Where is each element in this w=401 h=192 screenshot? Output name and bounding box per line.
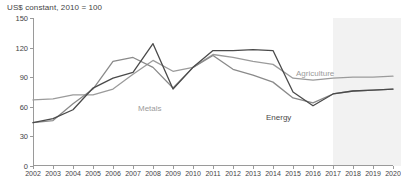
x-tick-label: 2003 xyxy=(45,170,61,177)
series-label-energy: Energy xyxy=(266,113,291,122)
x-tick-label: 2017 xyxy=(325,170,341,177)
plot-area: 0306090120150 20022003200420052006200720… xyxy=(33,18,393,166)
x-tick-mark xyxy=(293,166,294,169)
x-tick-label: 2016 xyxy=(305,170,321,177)
y-tick-label: 60 xyxy=(20,102,28,111)
series-label-metals: Metals xyxy=(138,104,162,113)
x-tick-label: 2012 xyxy=(225,170,241,177)
x-tick-mark xyxy=(253,166,254,169)
x-tick-mark xyxy=(93,166,94,169)
x-tick-label: 2005 xyxy=(85,170,101,177)
x-tick-label: 2014 xyxy=(265,170,281,177)
x-tick-mark xyxy=(53,166,54,169)
x-tick-label: 2013 xyxy=(245,170,261,177)
x-tick-mark xyxy=(173,166,174,169)
x-tick-mark xyxy=(193,166,194,169)
x-tick-mark xyxy=(393,166,394,169)
x-tick-mark xyxy=(273,166,274,169)
x-tick-label: 2009 xyxy=(165,170,181,177)
series-lines xyxy=(33,18,393,166)
x-tick-label: 2015 xyxy=(285,170,301,177)
x-tick-label: 2007 xyxy=(125,170,141,177)
x-tick-label: 2008 xyxy=(145,170,161,177)
x-tick-mark xyxy=(33,166,34,169)
x-tick-label: 2004 xyxy=(65,170,81,177)
series-label-agriculture: Agriculture xyxy=(296,69,334,78)
y-tick-label: 150 xyxy=(15,14,28,23)
x-tick-mark xyxy=(213,166,214,169)
x-tick-label: 2019 xyxy=(365,170,381,177)
chart-title: US$ constant, 2010 = 100 xyxy=(7,3,102,12)
x-tick-mark xyxy=(313,166,314,169)
y-tick-label: 90 xyxy=(20,73,28,82)
x-tick-mark xyxy=(353,166,354,169)
x-tick-mark xyxy=(113,166,114,169)
x-tick-label: 2018 xyxy=(345,170,361,177)
x-tick-mark xyxy=(233,166,234,169)
x-tick-mark xyxy=(73,166,74,169)
x-tick-label: 2002 xyxy=(25,170,41,177)
x-tick-mark xyxy=(333,166,334,169)
x-tick-label: 2011 xyxy=(205,170,220,177)
line-series-metals xyxy=(33,55,393,122)
x-tick-mark xyxy=(133,166,134,169)
x-tick-label: 2006 xyxy=(105,170,121,177)
chart-container: US$ constant, 2010 = 100 0306090120150 2… xyxy=(0,0,401,192)
x-tick-label: 2020 xyxy=(385,170,401,177)
x-tick-label: 2010 xyxy=(185,170,201,177)
y-tick-label: 120 xyxy=(15,43,28,52)
x-tick-mark xyxy=(373,166,374,169)
y-tick-label: 30 xyxy=(20,132,28,141)
x-tick-mark xyxy=(153,166,154,169)
